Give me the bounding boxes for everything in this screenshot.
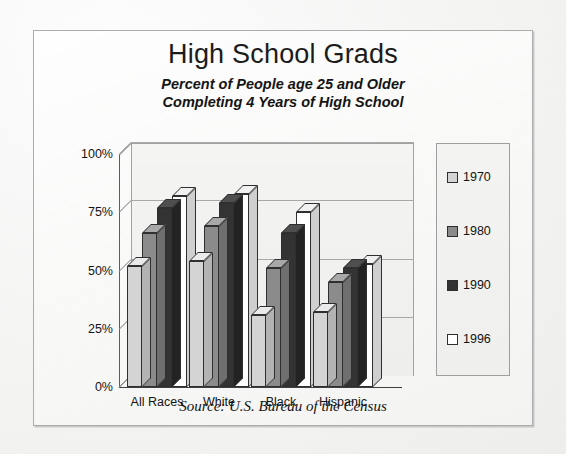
bar-side-face xyxy=(234,194,243,387)
subtitle-line-2: Completing 4 Years of High School xyxy=(34,93,532,111)
bar-side-face xyxy=(172,199,181,387)
legend-item-1990[interactable]: 1990 xyxy=(447,278,491,292)
source-note: Source: U.S. Bureau of the Census xyxy=(34,398,532,415)
y-axis-tick-label: 75% xyxy=(88,205,113,219)
legend-label: 1990 xyxy=(463,278,491,292)
bar-side-face xyxy=(373,255,382,387)
bar-front-face xyxy=(127,266,142,387)
y-axis-tick-label: 0% xyxy=(95,380,113,394)
bar-side-face xyxy=(204,252,213,387)
page-subtitle: Percent of People age 25 and Older Compl… xyxy=(34,75,532,111)
bar-side-face xyxy=(219,217,228,387)
legend-swatch-icon xyxy=(447,334,458,345)
bar-front-face xyxy=(313,312,328,387)
legend-label: 1970 xyxy=(463,170,491,184)
gridline xyxy=(131,142,414,143)
legend-swatch-icon xyxy=(447,172,458,183)
chart-legend: 1970198019901996 xyxy=(436,143,510,376)
tick-leader xyxy=(119,200,132,213)
bar-front-face xyxy=(251,315,266,387)
tick-leader xyxy=(119,142,132,155)
legend-label: 1980 xyxy=(463,224,491,238)
chart-card: High School Grads Percent of People age … xyxy=(33,30,533,426)
depth-edge-top-left xyxy=(119,143,132,156)
legend-swatch-icon xyxy=(447,280,458,291)
y-axis-tick-label: 100% xyxy=(81,147,113,161)
legend-item-1970[interactable]: 1970 xyxy=(447,170,491,184)
bar-front-face xyxy=(189,261,204,387)
legend-label: 1996 xyxy=(463,332,491,346)
bar-side-face xyxy=(328,303,337,387)
bar-side-face xyxy=(358,259,367,387)
bar-side-face xyxy=(296,224,305,387)
bar-side-face xyxy=(281,259,290,387)
legend-swatch-icon xyxy=(447,226,458,237)
page-title: High School Grads xyxy=(34,39,532,70)
chart-plot-area: 0%25%50%75%100% All RacesWhiteBlackHispa… xyxy=(119,143,414,388)
y-axis-tick-label: 25% xyxy=(88,322,113,336)
y-axis-tick-label: 50% xyxy=(88,264,113,278)
subtitle-line-1: Percent of People age 25 and Older xyxy=(161,76,404,92)
bar-side-face xyxy=(343,273,352,387)
bar-side-face xyxy=(157,224,166,387)
bar-side-face xyxy=(142,257,151,387)
bar-side-face xyxy=(266,306,275,387)
legend-item-1996[interactable]: 1996 xyxy=(447,332,491,346)
legend-item-1980[interactable]: 1980 xyxy=(447,224,491,238)
x-axis-line xyxy=(119,387,402,388)
